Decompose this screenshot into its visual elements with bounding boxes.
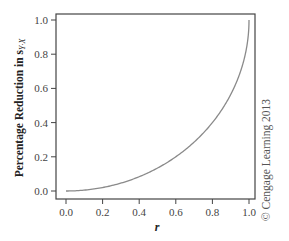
plot-frame xyxy=(56,14,255,199)
x-tick-label: 0.6 xyxy=(169,206,183,218)
x-tick-label: 0.8 xyxy=(206,206,220,218)
y-axis-ticks: 0.00.20.40.60.81.0 xyxy=(34,14,56,197)
y-axis-label: Percentage Reduction in sY·X xyxy=(13,39,27,178)
y-tick-label: 0.2 xyxy=(34,151,48,163)
x-tick-label: 0.4 xyxy=(132,206,146,218)
y-tick-label: 1.0 xyxy=(34,14,48,26)
x-axis-ticks: 0.00.20.40.60.81.0 xyxy=(59,199,256,218)
y-tick-label: 0.8 xyxy=(34,48,48,60)
x-tick-label: 0.0 xyxy=(59,206,73,218)
y-tick-label: 0.0 xyxy=(34,185,48,197)
y-axis-label-subscript: Y·X xyxy=(18,39,27,50)
x-axis-label: r xyxy=(155,220,160,235)
data-curve xyxy=(66,20,249,191)
chart-canvas: 0.00.20.40.60.81.0 0.00.20.40.60.81.0 xyxy=(0,0,289,241)
x-tick-label: 0.2 xyxy=(96,206,110,218)
copyright-annotation: © Cengage Learning 2013 xyxy=(260,99,272,221)
x-tick-label: 1.0 xyxy=(242,206,256,218)
y-axis-label-text: Percentage Reduction in s xyxy=(13,50,25,177)
y-tick-label: 0.6 xyxy=(34,82,48,94)
y-tick-label: 0.4 xyxy=(34,117,48,129)
